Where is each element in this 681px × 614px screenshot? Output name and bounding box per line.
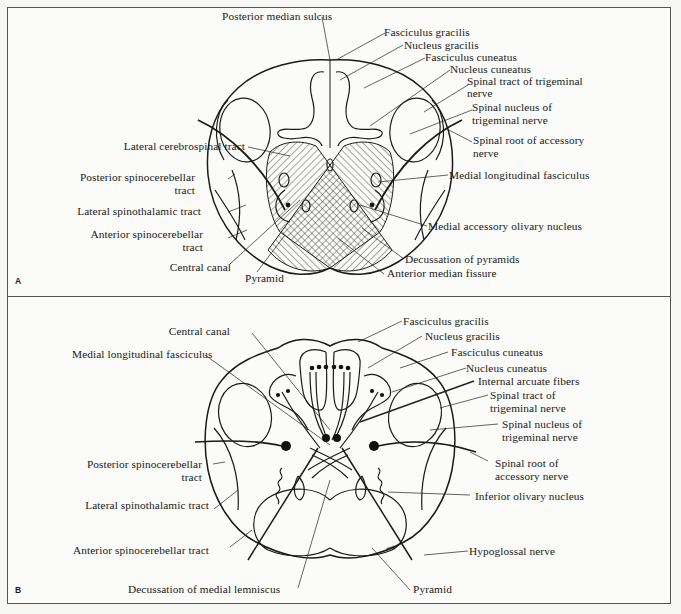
label-a-spinal-nucleus-trigeminal-1: Spinal nucleus of xyxy=(472,102,552,113)
panel-b-nuclei-dots xyxy=(276,365,384,451)
label-b-nucleus-cuneatus: Nucleus cuneatus xyxy=(466,363,547,374)
label-a-nucleus-gracilis: Nucleus gracilis xyxy=(404,40,479,51)
label-a-decussation-pyramids: Decussation of pyramids xyxy=(405,254,520,265)
label-a-spinal-root-accessory-2: nerve xyxy=(473,148,499,159)
label-b-spinal-nucleus-trigeminal-2: trigeminal nerve xyxy=(502,432,578,443)
label-a-spinal-tract-trigeminal-2: nerve xyxy=(467,88,493,99)
label-b-posterior-spinocerebellar-2: tract xyxy=(181,472,202,483)
label-b-fasciculus-cuneatus: Fasciculus cuneatus xyxy=(451,347,543,358)
label-a-central-canal: Central canal xyxy=(170,262,231,273)
label-b-decussation-medial-lemniscus: Decussation of medial lemniscus xyxy=(128,584,280,595)
label-b-inferior-olivary-nucleus: Inferior olivary nucleus xyxy=(475,491,584,502)
panel-a-letter: A xyxy=(15,276,21,286)
label-b-fasciculus-gracilis: Fasciculus gracilis xyxy=(403,316,489,327)
label-a-nucleus-cuneatus: Nucleus cuneatus xyxy=(450,64,531,75)
label-a-pyramid: Pyramid xyxy=(245,273,284,284)
label-b-internal-arcuate-fibers: Internal arcuate fibers xyxy=(478,376,579,387)
label-a-lateral-cerebrospinal-tract: Lateral cerebrospinal tract xyxy=(124,141,245,152)
label-a-anterior-median-fissure: Anterior median fissure xyxy=(387,268,497,279)
label-b-medial-longitudinal-fasciculus: Medial longitudinal fasciculus xyxy=(72,349,212,360)
panel-a-pyramidal-decussation xyxy=(266,142,393,271)
label-a-medial-longitudinal-fasciculus: Medial longitudinal fasciculus xyxy=(449,170,589,181)
label-b-hypoglossal-nerve: Hypoglossal nerve xyxy=(469,546,555,557)
label-b-spinal-root-accessory-1: Spinal root of xyxy=(495,458,559,469)
label-a-posterior-spinocerebellar-1: Posterior spinocerebellar xyxy=(80,172,195,183)
label-a-spinal-nucleus-trigeminal-2: trigeminal nerve xyxy=(472,115,548,126)
label-a-fasciculus-gracilis: Fasciculus gracilis xyxy=(384,27,470,38)
label-b-anterior-spinocerebellar: Anterior spinocerebellar tract xyxy=(73,545,209,556)
label-b-posterior-spinocerebellar-1: Posterior spinocerebellar xyxy=(87,459,202,470)
label-a-medial-accessory-olivary: Medial accessory olivary nucleus xyxy=(428,221,582,232)
panel-b-section xyxy=(195,339,476,560)
label-a-anterior-spinocerebellar-1: Anterior spinocerebellar xyxy=(91,229,204,240)
label-b-spinal-tract-trigeminal-2: trigeminal nerve xyxy=(490,403,566,414)
label-b-spinal-tract-trigeminal-1: Spinal tract of xyxy=(490,390,556,401)
label-a-posterior-median-sulcus: Posterior median sulcus xyxy=(222,11,332,22)
label-a-spinal-root-accessory-1: Spinal root of accessory xyxy=(473,135,584,146)
panel-b-letter: B xyxy=(15,585,21,595)
label-b-spinal-root-accessory-2: accessory nerve xyxy=(495,471,568,482)
label-b-nucleus-gracilis: Nucleus gracilis xyxy=(425,331,500,342)
label-a-posterior-spinocerebellar-2: tract xyxy=(174,185,195,196)
label-b-pyramid: Pyramid xyxy=(413,584,452,595)
label-b-lateral-spinothalamic: Lateral spinothalamic tract xyxy=(85,500,209,511)
label-b-spinal-nucleus-trigeminal-1: Spinal nucleus of xyxy=(502,419,582,430)
label-b-central-canal: Central canal xyxy=(169,326,230,337)
label-a-anterior-spinocerebellar-2: tract xyxy=(182,242,203,253)
label-a-spinal-tract-trigeminal-1: Spinal tract of trigeminal xyxy=(467,76,583,87)
label-a-lateral-spinothalamic: Lateral spinothalamic tract xyxy=(77,206,201,217)
medulla-diagrams xyxy=(0,0,681,614)
label-a-fasciculus-cuneatus: Fasciculus cuneatus xyxy=(425,52,517,63)
